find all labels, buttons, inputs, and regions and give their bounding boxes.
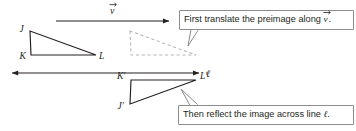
vector-label-text: v <box>110 5 115 16</box>
vertex-label-K: K <box>19 51 27 61</box>
vertex-label-J: J <box>20 24 25 34</box>
line-of-reflection: ℓ <box>12 68 210 79</box>
callout-reflect-text: Then reflect the image across line ℓ. <box>183 110 330 119</box>
vector-accent-icon <box>323 10 332 15</box>
vertex-label-L: L <box>98 51 104 61</box>
figure-canvas: v J K L ℓ K′ L′ J′ <box>0 0 356 131</box>
callout-translate-text: First translate the preimage along v. <box>184 15 331 24</box>
callout-translate-tail <box>188 30 199 47</box>
triangle-JKL: J K L <box>19 24 105 61</box>
callout-reflect-tail <box>181 89 199 106</box>
vertex-label-L-prime: L′ <box>199 71 208 81</box>
callout-translate-vector-glyph: v <box>323 14 328 24</box>
vertex-label-K-prime: K′ <box>116 71 126 81</box>
dashed-translated-triangle <box>130 31 196 55</box>
vertex-label-J-prime: J′ <box>118 101 125 111</box>
callout-translate: First translate the preimage along v. <box>179 10 354 30</box>
vector-v-label: v <box>110 3 117 16</box>
callout-reflect: Then reflect the image across line ℓ. <box>178 105 354 125</box>
